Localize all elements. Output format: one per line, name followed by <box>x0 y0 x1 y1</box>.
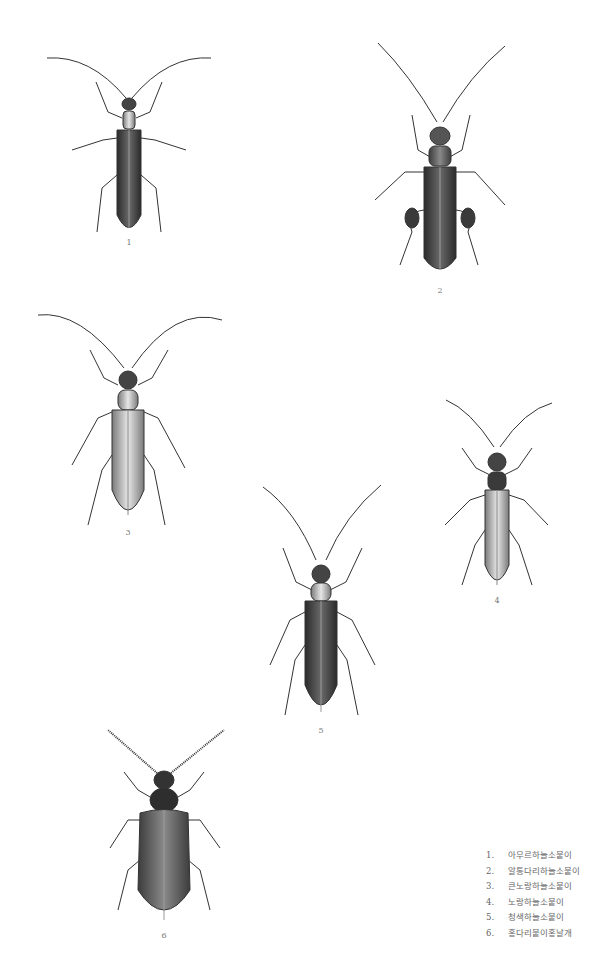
legend-item: 6.홍다리붙이홍날개 <box>486 926 580 942</box>
legend-label: 청색하늘소붙이 <box>508 910 564 926</box>
legend-number: 5. <box>486 910 508 926</box>
legend-item: 5.청색하늘소붙이 <box>486 910 580 926</box>
legend-item: 2.알통다리하늘소붙이 <box>486 864 580 880</box>
specimen-number-1: 1 <box>126 238 131 247</box>
specimen-number-5: 5 <box>318 726 323 735</box>
specimen-number-3: 3 <box>125 528 130 537</box>
legend-number: 3. <box>486 879 508 895</box>
legend-number: 4. <box>486 895 508 911</box>
beetle-2 <box>375 43 505 270</box>
legend-number: 1. <box>486 848 508 864</box>
legend-label: 알통다리하늘소붙이 <box>508 864 580 880</box>
beetle-plate: 1 2 3 4 <box>0 0 597 965</box>
beetle-5 <box>263 485 381 715</box>
legend-label: 노랑하늘소붙이 <box>508 895 564 911</box>
beetle-6 <box>108 730 224 920</box>
legend-item: 3.큰노랑하늘소붙이 <box>486 879 580 895</box>
legend-label: 홍다리붙이홍날개 <box>508 926 572 942</box>
legend-label: 아무르하늘소붙이 <box>508 848 572 864</box>
legend-item: 4.노랑하늘소붙이 <box>486 895 580 911</box>
legend-item: 1.아무르하늘소붙이 <box>486 848 580 864</box>
legend-number: 2. <box>486 864 508 880</box>
beetle-1 <box>47 58 211 232</box>
legend-label: 큰노랑하늘소붙이 <box>508 879 572 895</box>
specimen-number-2: 2 <box>437 286 442 295</box>
specimen-number-4: 4 <box>494 596 499 605</box>
beetle-3 <box>38 315 222 525</box>
species-legend: 1.아무르하늘소붙이 2.알통다리하늘소붙이 3.큰노랑하늘소붙이 4.노랑하늘… <box>486 848 580 942</box>
specimen-number-6: 6 <box>161 931 166 940</box>
beetle-4 <box>445 400 552 585</box>
legend-number: 6. <box>486 926 508 942</box>
